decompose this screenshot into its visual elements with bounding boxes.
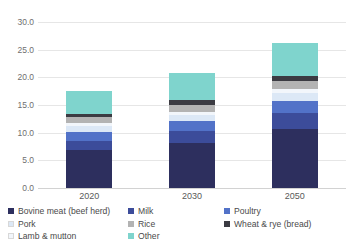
stacked-bar-2030[interactable] xyxy=(169,73,215,188)
legend-item-wheat-rye-bread[interactable]: Wheat & rye (bread) xyxy=(224,217,311,229)
legend-swatch-icon-lamb-mutton xyxy=(8,233,14,239)
legend-swatch-icon-wheat-rye-bread xyxy=(224,221,230,227)
legend-swatch-icon-other xyxy=(128,233,134,239)
y-axis-tick-25.0: 25.0 xyxy=(17,45,34,54)
legend-swatch-icon-pork xyxy=(8,221,14,227)
bar-segment-milk-2030[interactable] xyxy=(169,131,215,143)
legend-column-1: Bovine meat (beef herd)PorkLamb & mutton xyxy=(8,205,110,242)
legend-label-pork: Pork xyxy=(18,219,36,229)
bar-segment-milk-2020[interactable] xyxy=(66,141,112,150)
bar-segment-poultry-2020[interactable] xyxy=(66,132,112,141)
legend-item-bovine-meat-beef-herd[interactable]: Bovine meat (beef herd) xyxy=(8,205,110,217)
bar-column-2020 xyxy=(38,22,141,188)
x-axis-tick-2020: 2020 xyxy=(38,189,141,203)
legend-item-lamb-mutton[interactable]: Lamb & mutton xyxy=(8,230,110,242)
legend-item-pork[interactable]: Pork xyxy=(8,217,110,229)
x-axis-tick-2030: 2030 xyxy=(141,189,244,203)
legend-item-poultry[interactable]: Poultry xyxy=(224,205,311,217)
x-axis-tick-labels: 202020302050 xyxy=(38,189,346,203)
bar-segment-other-2050[interactable] xyxy=(272,43,318,76)
stacked-bar-2050[interactable] xyxy=(272,43,318,188)
y-axis-tick-10.0: 10.0 xyxy=(17,128,34,137)
bar-segment-bovine-meat-beef-herd-2020[interactable] xyxy=(66,150,112,188)
y-axis-tick-0.0: 0.0 xyxy=(22,184,34,193)
y-axis-tick-labels: 0.05.010.015.020.025.030.0 xyxy=(0,0,36,198)
legend-swatch-icon-poultry xyxy=(224,208,230,214)
plot-wrapper: 0.05.010.015.020.025.030.0 202020302050 xyxy=(0,0,350,198)
stacked-bar-2020[interactable] xyxy=(66,91,112,188)
legend-column-2: MilkRiceOther xyxy=(128,205,160,242)
bar-segment-poultry-2030[interactable] xyxy=(169,121,215,131)
legend-label-poultry: Poultry xyxy=(234,206,261,216)
legend-swatch-icon-bovine-meat-beef-herd xyxy=(8,208,14,214)
y-axis-tick-20.0: 20.0 xyxy=(17,73,34,82)
bar-segment-milk-2050[interactable] xyxy=(272,113,318,129)
legend-label-wheat-rye-bread: Wheat & rye (bread) xyxy=(234,219,311,229)
bar-segment-rice-2030[interactable] xyxy=(169,105,215,112)
legend-item-other[interactable]: Other xyxy=(128,230,160,242)
y-axis-tick-15.0: 15.0 xyxy=(17,101,34,110)
legend-label-rice: Rice xyxy=(138,219,155,229)
bar-segment-rice-2050[interactable] xyxy=(272,81,318,89)
chart-legend: Bovine meat (beef herd)PorkLamb & mutton… xyxy=(6,205,350,245)
legend-swatch-icon-rice xyxy=(128,221,134,227)
y-axis-tick-30.0: 30.0 xyxy=(17,18,34,27)
bar-segment-pork-2050[interactable] xyxy=(272,93,318,101)
bar-segment-other-2030[interactable] xyxy=(169,73,215,100)
legend-label-lamb-mutton: Lamb & mutton xyxy=(18,231,76,241)
bar-column-2050 xyxy=(243,22,346,188)
legend-column-3: PoultryWheat & rye (bread) xyxy=(224,205,311,230)
bar-segment-bovine-meat-beef-herd-2030[interactable] xyxy=(169,143,215,188)
bar-segment-other-2020[interactable] xyxy=(66,91,112,114)
bar-group xyxy=(38,22,346,188)
legend-label-milk: Milk xyxy=(138,206,153,216)
legend-item-milk[interactable]: Milk xyxy=(128,205,160,217)
legend-swatch-icon-milk xyxy=(128,208,134,214)
legend-label-bovine-meat-beef-herd: Bovine meat (beef herd) xyxy=(18,206,110,216)
legend-label-other: Other xyxy=(138,231,160,241)
bar-segment-poultry-2050[interactable] xyxy=(272,101,318,114)
bar-segment-bovine-meat-beef-herd-2050[interactable] xyxy=(272,129,318,188)
bar-column-2030 xyxy=(141,22,244,188)
y-axis-tick-5.0: 5.0 xyxy=(22,156,34,165)
legend-item-rice[interactable]: Rice xyxy=(128,217,160,229)
plot-area xyxy=(38,22,346,188)
stacked-bar-chart: 0.05.010.015.020.025.030.0 202020302050 … xyxy=(0,0,350,245)
x-axis-tick-2050: 2050 xyxy=(243,189,346,203)
